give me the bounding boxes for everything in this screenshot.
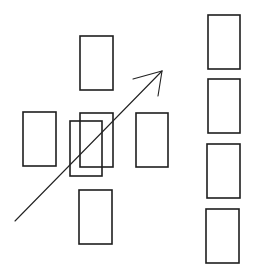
column-rect-4 <box>206 209 239 263</box>
diagram-svg <box>0 0 257 280</box>
rect-top <box>80 36 113 90</box>
rect-right <box>136 113 168 167</box>
diagram-canvas <box>0 0 257 280</box>
cluster-group <box>23 36 168 244</box>
column-rect-3 <box>207 144 240 198</box>
column-group <box>206 15 240 263</box>
rect-left <box>23 112 56 166</box>
arrow-icon <box>15 71 162 221</box>
rect-bottom <box>79 190 112 244</box>
arrow-shaft <box>15 71 162 221</box>
column-rect-2 <box>208 79 240 133</box>
column-rect-1 <box>208 15 240 69</box>
